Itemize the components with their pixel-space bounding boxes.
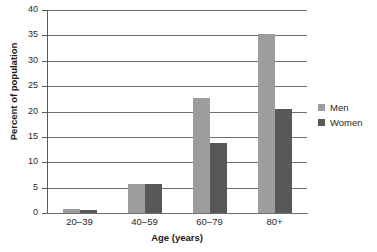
chart-legend: MenWomen [318,100,363,130]
y-axis-tick-label: 35 [18,30,38,39]
legend-label: Men [330,102,348,113]
x-axis-title: Age (years) [47,232,307,243]
y-axis-tick-label: 0 [18,208,38,217]
bar-women [145,184,162,213]
bar-men [258,34,275,213]
x-axis-tick-label: 20–39 [47,216,112,227]
x-axis-tick-label: 60–79 [177,216,242,227]
x-axis-line [47,213,308,214]
bar-groups [47,10,307,213]
bar-women [80,210,97,213]
bar-men [63,209,80,213]
y-axis-tick-label: 25 [18,81,38,90]
y-axis-tick-label: 5 [18,183,38,192]
bar-group [112,10,177,213]
bar-group [177,10,242,213]
legend-item: Men [318,100,363,115]
y-axis-tick-label: 20 [18,107,38,116]
legend-item: Women [318,115,363,130]
x-axis-tick-label: 40–59 [112,216,177,227]
legend-swatch-icon [318,119,325,126]
y-axis-title: Percent of population [8,27,19,157]
bar-chart: Percent of population 0510152025303540 2… [0,0,377,252]
bar-women [275,109,292,213]
legend-swatch-icon [318,104,325,111]
y-axis-tick-label: 15 [18,132,38,141]
bar-men [193,98,210,213]
y-axis-tick-label: 10 [18,157,38,166]
legend-label: Women [330,117,363,128]
bar-group [47,10,112,213]
x-axis-tick-labels: 20–3940–5960–7980+ [47,216,307,227]
x-axis-tick-label: 80+ [242,216,307,227]
bar-men [128,184,145,213]
bar-women [210,143,227,213]
y-axis-tick-label: 30 [18,56,38,65]
bar-group [242,10,307,213]
y-axis-tick-label: 40 [18,5,38,14]
